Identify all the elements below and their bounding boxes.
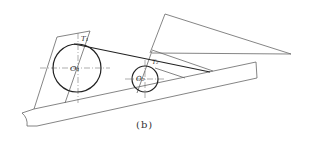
label-t2: T₂ <box>152 58 159 65</box>
base-bar-top <box>34 62 257 126</box>
label-t1: T₁ <box>81 35 89 43</box>
inner-band-bottom <box>155 68 185 78</box>
base-bar-left-end <box>22 109 37 126</box>
label-o1: O₁ <box>70 64 80 73</box>
belt-upper-line <box>74 44 210 72</box>
label-o2: O₂ <box>136 75 145 83</box>
figure-caption: (b) <box>136 119 153 130</box>
outer-frame <box>150 14 291 54</box>
